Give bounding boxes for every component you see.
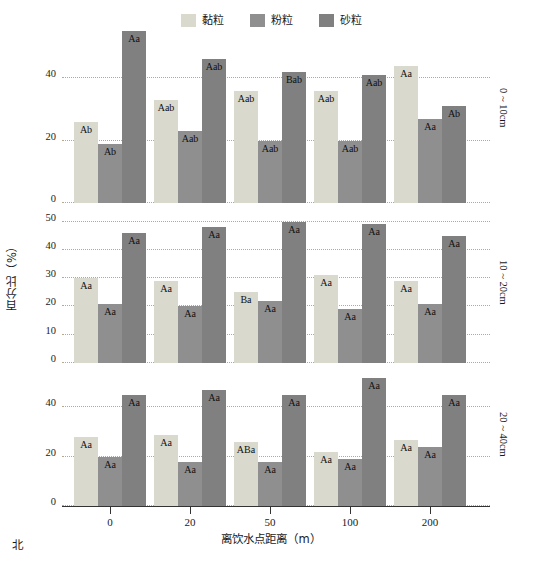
bar-砂粒-20m: Aa <box>202 390 226 506</box>
legend-item-sand: 砂粒 <box>319 14 362 27</box>
bar-砂粒-0m: Aa <box>122 233 146 363</box>
x-tick <box>430 507 431 514</box>
bar-砂粒-100m: Aa <box>362 378 386 506</box>
bar-group-200m: AaAaAa <box>394 213 470 363</box>
panel-2: 01020304050AaAaAaAaAaAaBaAaAaAaAaAaAaAaA… <box>62 213 490 363</box>
depth-label-2: 10 ~ 20cm <box>498 260 509 305</box>
bar-value-label: Ab <box>448 108 460 119</box>
bar-value-label: Aa <box>448 397 460 408</box>
bar-value-label: Ab <box>104 146 116 157</box>
panel-1: 02040AbAbAaAabAabAabAabAabBabAabAabAabAa… <box>62 28 490 203</box>
bar-砂粒-0m: Aa <box>122 395 146 506</box>
bar-group-100m: AabAabAab <box>314 28 390 203</box>
plot-area: 02040AbAbAaAabAabAabAabAabBabAabAabAabAa… <box>62 28 490 503</box>
bar-黏粒-100m: Aa <box>314 452 338 506</box>
panel-3: 02040AaAaAaAaAaAaABaAaAaAaAaAaAaAaAa <box>62 373 490 506</box>
x-tick-label: 20 <box>185 516 196 528</box>
bar-粉粒-50m: Aa <box>258 301 282 363</box>
legend-label-clay: 黏粒 <box>202 14 224 27</box>
bar-value-label: Aa <box>320 454 332 465</box>
bar-value-label: Aa <box>288 397 300 408</box>
legend-item-clay: 黏粒 <box>181 14 224 27</box>
bar-value-label: Aab <box>366 77 383 88</box>
bar-黏粒-20m: Aab <box>154 100 178 203</box>
bar-value-label: Aa <box>288 224 300 235</box>
bar-value-label: Aa <box>448 238 460 249</box>
bar-group-200m: AaAaAa <box>394 373 470 506</box>
bar-group-100m: AaAaAa <box>314 213 390 363</box>
bar-value-label: Aa <box>128 235 140 246</box>
bar-黏粒-20m: Aa <box>154 281 178 363</box>
x-tick-label: 0 <box>107 516 113 528</box>
bar-黏粒-20m: Aa <box>154 435 178 506</box>
x-tick <box>350 507 351 514</box>
bar-value-label: Aa <box>424 449 436 460</box>
bar-value-label: Aa <box>264 303 276 314</box>
bar-黏粒-0m: Aa <box>74 437 98 506</box>
chart-root: 黏粒粉粒砂粒 02040AbAbAaAabAabAabAabAabBabAabA… <box>0 0 542 573</box>
y-tick-label: 10 <box>46 324 57 335</box>
bar-value-label: Aa <box>424 306 436 317</box>
bar-粉粒-0m: Ab <box>98 144 122 203</box>
depth-label-1: 0 ~ 10cm <box>498 88 509 128</box>
bar-砂粒-100m: Aa <box>362 224 386 363</box>
y-tick-label: 40 <box>46 397 57 408</box>
bar-粉粒-200m: Aa <box>418 447 442 506</box>
bar-value-label: Aa <box>160 283 172 294</box>
bar-粉粒-50m: Aab <box>258 141 282 204</box>
bar-粉粒-200m: Aa <box>418 119 442 203</box>
bar-粉粒-200m: Aa <box>418 304 442 363</box>
bar-黏粒-100m: Aab <box>314 91 338 204</box>
chart-legend: 黏粒粉粒砂粒 <box>0 14 542 27</box>
bar-value-label: ABa <box>237 444 255 455</box>
y-tick-label: 30 <box>46 268 57 279</box>
x-tick-label: 100 <box>342 516 359 528</box>
y-tick-label: 40 <box>46 68 57 79</box>
bar-粉粒-100m: Aa <box>338 459 362 506</box>
bar-value-label: Aab <box>182 133 199 144</box>
bar-value-label: Aa <box>208 229 220 240</box>
bar-value-label: Aab <box>238 93 255 104</box>
bar-group-0m: AaAaAa <box>74 373 150 506</box>
y-tick-label: 0 <box>51 193 56 204</box>
bar-砂粒-50m: Aa <box>282 222 306 364</box>
bar-砂粒-20m: Aab <box>202 59 226 203</box>
legend-label-sand: 砂粒 <box>340 14 362 27</box>
bar-黏粒-100m: Aa <box>314 275 338 363</box>
x-tick <box>110 507 111 514</box>
x-tick <box>270 507 271 514</box>
bar-砂粒-200m: Aa <box>442 236 466 363</box>
bar-value-label: Aa <box>400 283 412 294</box>
bar-砂粒-50m: Aa <box>282 395 306 506</box>
bar-value-label: Aa <box>104 459 116 470</box>
bar-value-label: Aa <box>264 464 276 475</box>
bar-砂粒-20m: Aa <box>202 227 226 363</box>
legend-swatch-sand <box>319 14 334 27</box>
bar-value-label: Aab <box>262 143 279 154</box>
bar-黏粒-200m: Aa <box>394 66 418 204</box>
bar-粉粒-0m: Aa <box>98 457 122 506</box>
bar-value-label: Aab <box>158 102 175 113</box>
bar-粉粒-100m: Aab <box>338 141 362 204</box>
bar-value-label: Aa <box>424 121 436 132</box>
bar-value-label: Aa <box>104 306 116 317</box>
bar-value-label: Aab <box>206 61 223 72</box>
y-tick-label: 20 <box>46 130 57 141</box>
bar-黏粒-200m: Aa <box>394 281 418 363</box>
x-axis: 02050100200 <box>62 506 490 507</box>
bar-group-200m: AaAaAb <box>394 28 470 203</box>
bar-砂粒-100m: Aab <box>362 75 386 203</box>
bar-value-label: Aa <box>128 33 140 44</box>
bar-group-100m: AaAaAa <box>314 373 390 506</box>
bar-value-label: Bab <box>286 74 302 85</box>
bar-value-label: Aa <box>208 392 220 403</box>
bar-粉粒-100m: Aa <box>338 309 362 363</box>
bar-黏粒-0m: Ab <box>74 122 98 203</box>
bar-黏粒-0m: Aa <box>74 278 98 363</box>
legend-swatch-silt <box>250 14 265 27</box>
bar-group-20m: AaAaAa <box>154 213 230 363</box>
bar-value-label: Ab <box>80 124 92 135</box>
bar-value-label: Aa <box>344 311 356 322</box>
bar-group-50m: ABaAaAa <box>234 373 310 506</box>
bar-value-label: Aa <box>368 380 380 391</box>
